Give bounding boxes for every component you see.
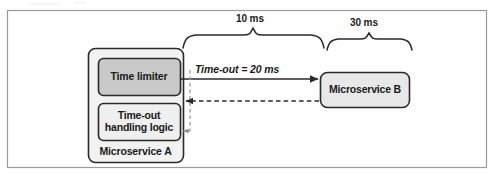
diagram-canvas: Time limiter Time-out handling logic Mic…	[0, 0, 496, 175]
microservice-b-box[interactable]	[321, 73, 410, 108]
scan-artifact	[30, 3, 86, 4]
service-processing-brace	[327, 33, 412, 50]
network-latency-brace	[183, 28, 324, 48]
time-limiter-box[interactable]	[99, 59, 181, 96]
timeout-handling-logic-box[interactable]	[99, 104, 181, 141]
diagram-vector-layer	[0, 0, 496, 175]
